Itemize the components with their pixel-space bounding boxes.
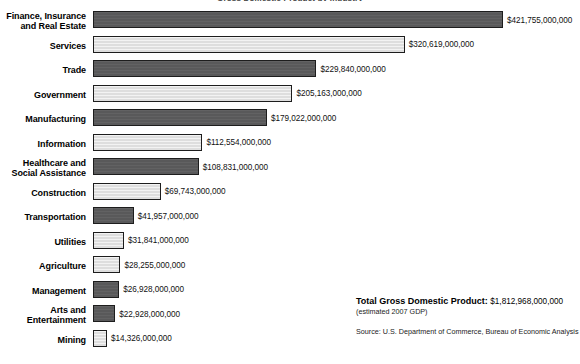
bar-value-label: $41,957,000,000 (138, 211, 199, 220)
bar-value-label: $26,928,000,000 (123, 285, 184, 294)
bar-value-label: $69,743,000,000 (165, 187, 226, 196)
bar-track: $108,831,000,000 (93, 158, 199, 175)
bar[interactable]: $22,928,000,000 (93, 305, 115, 322)
bar-track: $320,619,000,000 (93, 36, 405, 53)
bar-track: $31,841,000,000 (93, 232, 124, 249)
bar-row: Utilities$31,841,000,000 (0, 231, 580, 256)
bar[interactable]: $14,326,000,000 (93, 330, 107, 347)
bar[interactable]: $26,928,000,000 (93, 281, 119, 298)
bar-row: Construction$69,743,000,000 (0, 182, 580, 207)
bar[interactable]: $179,022,000,000 (93, 109, 267, 126)
bar-track: $421,755,000,000 (93, 11, 503, 28)
bar-category-label: Finance, Insurance and Real Estate (0, 13, 86, 32)
gdp-by-industry-chart: Gross Domestic Product by Industry Finan… (0, 0, 580, 364)
bar-value-label: $14,326,000,000 (111, 334, 172, 343)
bar[interactable]: $421,755,000,000 (93, 11, 503, 28)
bar-value-label: $28,255,000,000 (124, 260, 185, 269)
bar-track: $41,957,000,000 (93, 207, 134, 224)
bar[interactable]: $112,554,000,000 (93, 134, 202, 151)
bar-value-label: $112,554,000,000 (206, 138, 271, 147)
bar-track: $229,840,000,000 (93, 60, 316, 77)
bar-category-label: Trade (0, 66, 86, 76)
bar-track: $179,022,000,000 (93, 109, 267, 126)
bar-category-label: Arts and Entertainment (0, 307, 86, 326)
bar-track: $205,163,000,000 (93, 85, 292, 102)
bar-value-label: $320,619,000,000 (409, 40, 474, 49)
bar-track: $22,928,000,000 (93, 305, 115, 322)
bar-category-label: Healthcare and Social Assistance (0, 160, 86, 179)
total-gdp-line: Total Gross Domestic Product: $1,812,968… (356, 296, 580, 307)
bar[interactable]: $31,841,000,000 (93, 232, 124, 249)
bar-value-label: $108,831,000,000 (203, 162, 268, 171)
bar-value-label: $421,755,000,000 (507, 15, 572, 24)
bar-track: $28,255,000,000 (93, 256, 120, 273)
bar[interactable]: $205,163,000,000 (93, 85, 292, 102)
bar-category-label: Utilities (0, 238, 86, 248)
bar[interactable]: $108,831,000,000 (93, 158, 199, 175)
bar[interactable]: $41,957,000,000 (93, 207, 134, 224)
bar-category-label: Services (0, 42, 86, 52)
bar-row: Agriculture$28,255,000,000 (0, 255, 580, 280)
bar-category-label: Transportation (0, 213, 86, 223)
bar[interactable]: $69,743,000,000 (93, 183, 161, 200)
bar-row: Healthcare and Social Assistance$108,831… (0, 157, 580, 182)
bar-row: Manufacturing$179,022,000,000 (0, 108, 580, 133)
bar-value-label: $205,163,000,000 (296, 89, 361, 98)
chart-title: Gross Domestic Product by Industry (0, 0, 580, 1)
bar-value-label: $31,841,000,000 (128, 236, 189, 245)
bar-row: Trade$229,840,000,000 (0, 59, 580, 84)
bar-track: $26,928,000,000 (93, 281, 119, 298)
total-gdp-value: $1,812,968,000,000 (490, 297, 563, 306)
bar-value-label: $229,840,000,000 (320, 64, 385, 73)
bar-category-label: Construction (0, 189, 86, 199)
bar-track: $14,326,000,000 (93, 330, 107, 347)
bar-row: Government$205,163,000,000 (0, 84, 580, 109)
bar-value-label: $179,022,000,000 (271, 113, 336, 122)
bar[interactable]: $320,619,000,000 (93, 36, 405, 53)
bar[interactable]: $28,255,000,000 (93, 256, 120, 273)
bar-value-label: $22,928,000,000 (119, 309, 180, 318)
source-note: Source: U.S. Department of Commerce, Bur… (356, 327, 580, 336)
bar-category-label: Mining (0, 336, 86, 346)
total-gdp-note: (estimated 2007 GDP) (356, 307, 580, 316)
bar-track: $112,554,000,000 (93, 134, 202, 151)
bar-row: Information$112,554,000,000 (0, 133, 580, 158)
bar-row: Finance, Insurance and Real Estate$421,7… (0, 10, 580, 35)
bar-track: $69,743,000,000 (93, 183, 161, 200)
bar-category-label: Information (0, 140, 86, 150)
bar[interactable]: $229,840,000,000 (93, 60, 316, 77)
bar-category-label: Manufacturing (0, 115, 86, 125)
bar-category-label: Government (0, 91, 86, 101)
bar-category-label: Agriculture (0, 262, 86, 272)
summary-block: Total Gross Domestic Product: $1,812,968… (356, 296, 580, 336)
bar-category-label: Management (0, 287, 86, 297)
bar-row: Transportation$41,957,000,000 (0, 206, 580, 231)
bar-row: Services$320,619,000,000 (0, 35, 580, 60)
total-gdp-label: Total Gross Domestic Product: (356, 296, 488, 306)
